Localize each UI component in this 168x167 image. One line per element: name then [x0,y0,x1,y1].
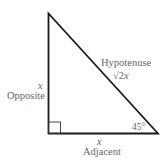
sqrt2: √2 [113,70,124,81]
opposite-label: Opposite [7,90,45,101]
angle-label: 45° [132,122,145,133]
adjacent-label: Adjacent [83,146,121,157]
hypotenuse-var: x [124,70,129,81]
triangle-diagram [0,0,168,167]
hypotenuse-label: Hypotenuse [101,57,151,68]
triangle [49,14,159,134]
hypotenuse-length: √2x [113,70,129,81]
right-angle-marker [49,122,61,134]
